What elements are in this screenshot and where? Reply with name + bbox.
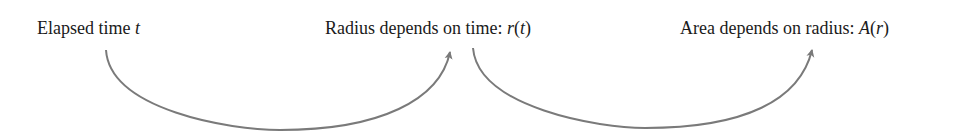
arrow-time-to-radius bbox=[106, 50, 450, 130]
arrows-layer bbox=[0, 0, 977, 136]
arrow-radius-to-area bbox=[473, 48, 812, 128]
